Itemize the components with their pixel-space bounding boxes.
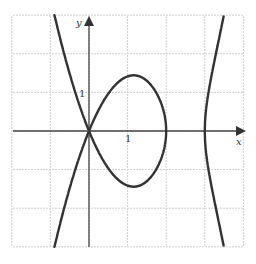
- x-tick-1: 1: [125, 133, 131, 144]
- y-axis-label: y: [75, 17, 82, 28]
- y-tick-1: 1: [79, 88, 85, 99]
- y-axis-arrow-icon: [84, 16, 94, 26]
- x-axis-label: x: [236, 136, 242, 147]
- plot: x y 1 1: [0, 0, 256, 264]
- x-axis-arrow-icon: [236, 126, 246, 136]
